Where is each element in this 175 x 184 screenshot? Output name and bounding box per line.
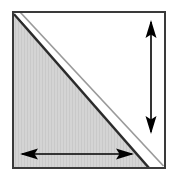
geometry-diagram	[0, 0, 175, 184]
figure-container	[0, 0, 175, 184]
